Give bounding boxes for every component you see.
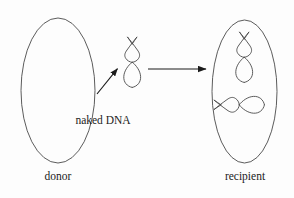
- recipient-cell: [212, 20, 277, 163]
- donor-cell: [21, 18, 95, 163]
- recipient-transformed-dna: [214, 96, 264, 113]
- diagram-canvas: [0, 0, 294, 198]
- dna-release-arrow: [97, 69, 118, 94]
- donor-label: donor: [12, 171, 104, 183]
- donor-cell-membrane: [21, 18, 95, 163]
- transformation-diagram: naked DNA donor recipient: [0, 0, 294, 198]
- naked-dna-label: naked DNA: [0, 115, 206, 127]
- recipient-cell-membrane: [212, 20, 277, 163]
- recipient-chromosomal-dna: [236, 32, 253, 82]
- recipient-label: recipient: [199, 171, 291, 183]
- naked-dna-molecule: [124, 37, 141, 87]
